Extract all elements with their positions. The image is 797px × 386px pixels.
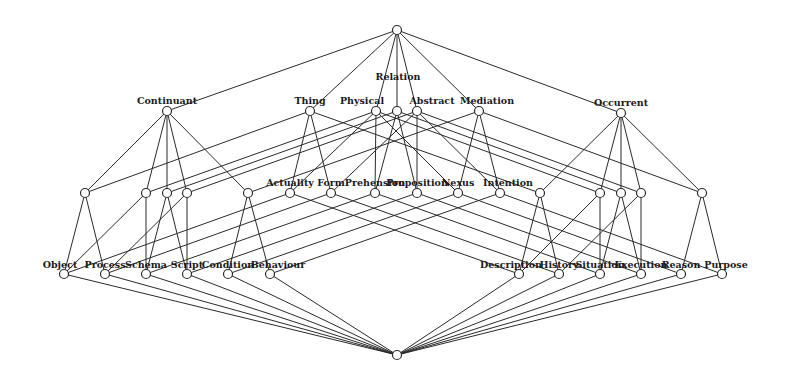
label-continuant: Continuant xyxy=(137,95,198,106)
label-nexus: Nexus xyxy=(442,177,475,188)
node-nexus xyxy=(454,189,463,198)
node-condition xyxy=(224,270,233,279)
node-situation xyxy=(596,270,605,279)
node-r4 xyxy=(637,189,646,198)
label-abstract: Abstract xyxy=(408,95,455,106)
edge-situation-bottom xyxy=(397,274,600,355)
label-process: Process xyxy=(84,259,125,270)
label-reason: Reason xyxy=(662,259,701,270)
label-form: Form xyxy=(317,177,345,188)
edge-purpose-bottom xyxy=(397,274,722,355)
edge-continuant-l4 xyxy=(167,111,187,193)
edge-occurrent-r2 xyxy=(600,113,621,193)
edge-occurrent-r4 xyxy=(621,113,641,193)
edge-continuant-l2 xyxy=(146,111,167,193)
node-r5 xyxy=(698,189,707,198)
label-purpose: Purpose xyxy=(704,259,747,270)
node-purpose xyxy=(718,270,727,279)
node-history xyxy=(555,270,564,279)
node-relation xyxy=(393,107,402,116)
label-proposition: Proposition xyxy=(386,177,448,188)
node-l3 xyxy=(163,189,172,198)
node-thing xyxy=(306,107,315,116)
node-r1 xyxy=(536,189,545,198)
label-execution: Execution xyxy=(615,259,668,270)
label-actuality: Actuality xyxy=(265,177,314,188)
label-intention: Intention xyxy=(483,177,533,188)
node-l2 xyxy=(142,189,151,198)
edge-script-bottom xyxy=(187,274,397,355)
node-actuality xyxy=(286,189,295,198)
label-condition: Condition xyxy=(202,259,254,270)
node-intention xyxy=(496,189,505,198)
edge-condition-bottom xyxy=(228,274,397,355)
label-mediation: Mediation xyxy=(460,95,514,106)
edge-schema-bottom xyxy=(146,274,397,355)
edge-behaviour-bottom xyxy=(270,274,397,355)
node-script xyxy=(183,270,192,279)
node-schema xyxy=(142,270,151,279)
node-prehension xyxy=(371,189,380,198)
label-description: Description xyxy=(480,259,542,270)
edge-occurrent-r5 xyxy=(621,113,702,193)
node-description xyxy=(515,270,524,279)
edge-reason-bottom xyxy=(397,274,681,355)
label-behaviour: Behaviour xyxy=(251,259,307,270)
node-occurrent xyxy=(617,109,626,118)
node-r3 xyxy=(617,189,626,198)
node-continuant xyxy=(163,107,172,116)
label-physical: Physical xyxy=(340,95,384,106)
node-behaviour xyxy=(266,270,275,279)
label-thing: Thing xyxy=(294,95,325,106)
label-occurrent: Occurrent xyxy=(594,97,649,108)
node-form xyxy=(327,189,336,198)
node-l1 xyxy=(81,189,90,198)
node-process xyxy=(101,270,110,279)
ontology-lattice-diagram: ContinuantThingPhysicalRelationAbstractM… xyxy=(0,0,797,386)
label-script: Script xyxy=(171,259,204,270)
node-r2 xyxy=(596,189,605,198)
node-reason xyxy=(677,270,686,279)
node-mediation xyxy=(475,107,484,116)
node-execution xyxy=(637,270,646,279)
label-object: Object xyxy=(43,259,78,270)
label-history: History xyxy=(539,259,579,270)
node-l4 xyxy=(183,189,192,198)
label-relation: Relation xyxy=(376,71,421,82)
label-schema: Schema xyxy=(125,259,167,270)
node-abstract xyxy=(413,107,422,116)
node-top xyxy=(393,26,402,35)
edge-history-bottom xyxy=(397,274,559,355)
node-l5 xyxy=(244,189,253,198)
edge-object-bottom xyxy=(64,274,397,355)
edge-continuant-l1 xyxy=(85,111,167,193)
edge-description-bottom xyxy=(397,274,519,355)
node-bottom xyxy=(393,351,402,360)
node-proposition xyxy=(413,189,422,198)
edge-execution-bottom xyxy=(397,274,641,355)
edge-process-bottom xyxy=(105,274,397,355)
node-physical xyxy=(372,107,381,116)
node-object xyxy=(60,270,69,279)
